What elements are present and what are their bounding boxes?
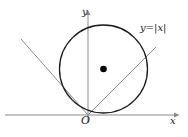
x-axis-label: x bbox=[170, 116, 176, 126]
geometry-figure: y x O y=|x| bbox=[0, 0, 188, 137]
origin-label: O bbox=[81, 115, 90, 126]
circle-center-dot bbox=[100, 66, 107, 73]
y-axis-label: y bbox=[82, 7, 88, 17]
line-equation-label: y=|x| bbox=[140, 23, 166, 33]
line-equation-operator: =| bbox=[146, 22, 158, 33]
figure-canvas bbox=[0, 0, 188, 137]
line-equation-bar: | bbox=[163, 22, 166, 33]
ray-left-branch bbox=[21, 39, 88, 115]
x-axis-group bbox=[5, 112, 180, 117]
